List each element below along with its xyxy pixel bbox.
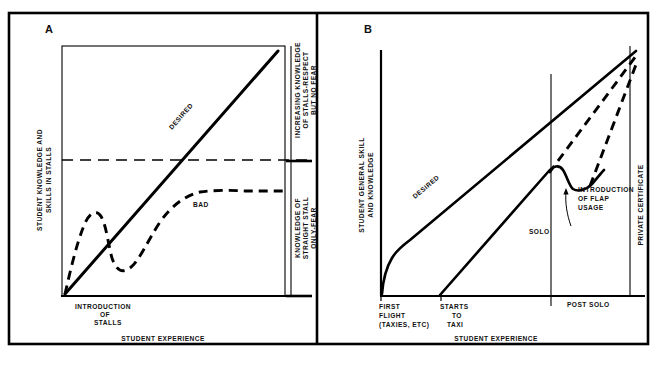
figure-svg: A DESIRED BAD STUDENT KNOWLEDGE AND SKIL…: [0, 0, 661, 366]
panel-b-tick-label-0-line1: FIRST: [379, 303, 400, 310]
panel-a-lower-category-line2: STRAIGHT STALL: [302, 197, 309, 260]
panel-b-annotation-line1: INTRODUCTION: [578, 186, 634, 193]
panel-b-post-solo-label: POST SOLO: [567, 301, 610, 308]
panel-a-y-axis-label-line2: SKILLS IN STALLS: [45, 147, 52, 213]
panel-a-desired-curve: [65, 51, 278, 294]
panel-b-annotation-leader: [566, 191, 571, 226]
panel-b-desired-label: DESIRED: [411, 174, 440, 200]
panel-a-upper-category-line2: OF STALLS-RESPECT: [302, 51, 309, 128]
panel-b-annotation-line2: OF FLAP: [578, 195, 610, 202]
panel-a-x-axis-title: STUDENT EXPERIENCE: [121, 335, 205, 342]
panel-b-annotation-line3: USAGE: [578, 204, 604, 211]
panel-b-desired-curve: [382, 51, 636, 294]
panel-a-bad-label: BAD: [193, 201, 209, 208]
panel-b-tick-label-0-line3: (TAXIES, ETC): [379, 321, 429, 329]
panel-b: B DESIRED INTRODUCTION OF FLAP USAGE SOL…: [358, 23, 645, 342]
panel-b-annotation-arrowhead: [563, 188, 568, 194]
panel-b-tick-label-1-line2: TO: [452, 312, 462, 319]
panel-a-origin-label-line3: STALLS: [94, 319, 122, 326]
panel-b-tick-label-1-line3: TAXI: [447, 321, 463, 328]
panel-a-y-axis-label-line1: STUDENT KNOWLEDGE AND: [36, 129, 43, 231]
panel-b-private-certificate-label: PRIVATE CERTIFICATE: [637, 164, 644, 245]
panel-a-desired-label: DESIRED: [167, 102, 194, 131]
panel-a-upper-category-line3: BUT NO FEAR: [310, 65, 317, 115]
panel-b-x-axis-title: STUDENT EXPERIENCE: [454, 335, 538, 342]
panel-b-solo-label: SOLO: [529, 228, 549, 235]
panel-a-letter: A: [45, 23, 53, 35]
panel-a-origin-label-line1: INTRODUCTION: [75, 303, 131, 310]
panel-a-lower-category-line3: ONLY-FEAR: [310, 207, 317, 249]
panel-a-lower-category-line1: KNOWLEDGE OF: [294, 198, 301, 258]
panel-b-tick-label-0-line2: FLIGHT: [379, 312, 406, 319]
outer-frame: [9, 13, 648, 344]
panel-a-origin-label-line2: OF: [100, 311, 110, 318]
panel-a-upper-category-line1: INCREASING KNOWLEDGE: [294, 42, 301, 138]
panel-b-letter: B: [364, 23, 372, 35]
panel-a-bad-curve: [65, 190, 285, 294]
panel-a: A DESIRED BAD STUDENT KNOWLEDGE AND SKIL…: [36, 23, 317, 342]
panel-b-y-axis-label-line1: STUDENT GENERAL SKILL: [358, 137, 365, 232]
figure-container: A DESIRED BAD STUDENT KNOWLEDGE AND SKIL…: [0, 0, 661, 366]
panel-b-tick-label-1-line1: STARTS: [440, 303, 469, 310]
panel-b-y-axis-label-line2: AND KNOWLEDGE: [367, 152, 374, 218]
